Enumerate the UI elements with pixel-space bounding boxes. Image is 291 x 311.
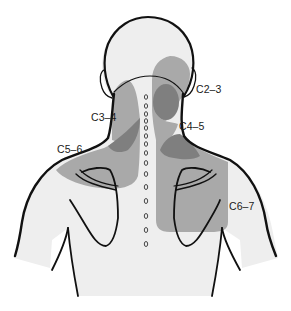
label-c2-3: C2–3 — [196, 84, 222, 95]
label-c3-4: C3–4 — [91, 112, 117, 123]
label-c4-5: C4–5 — [179, 121, 205, 132]
zone-c2-3-overlap — [153, 84, 179, 120]
body-silhouette — [14, 16, 278, 296]
cervical-pain-diagram — [0, 0, 291, 311]
label-c5-6: C5–6 — [57, 144, 83, 155]
label-c6-7: C6–7 — [229, 201, 255, 212]
